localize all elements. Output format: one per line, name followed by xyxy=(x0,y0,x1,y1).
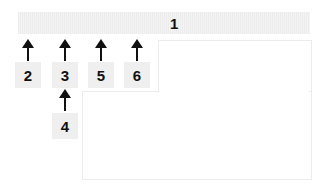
tag-6: 6 xyxy=(124,62,150,88)
arrow-up-icon xyxy=(58,39,72,61)
arrow-up-icon xyxy=(21,39,35,61)
bar-label: 1 xyxy=(170,15,178,32)
arrow-up-icon xyxy=(58,89,72,111)
outline-top-region xyxy=(158,40,312,93)
outline-bottom-region xyxy=(82,91,312,180)
tag-3: 3 xyxy=(52,62,78,88)
outline-mask xyxy=(159,90,309,93)
arrow-up-icon xyxy=(94,39,108,61)
arrow-up-icon xyxy=(130,39,144,61)
tag-4: 4 xyxy=(52,113,78,139)
top-bar: 1 xyxy=(18,12,310,34)
tag-5: 5 xyxy=(88,62,114,88)
tag-2: 2 xyxy=(15,62,41,88)
